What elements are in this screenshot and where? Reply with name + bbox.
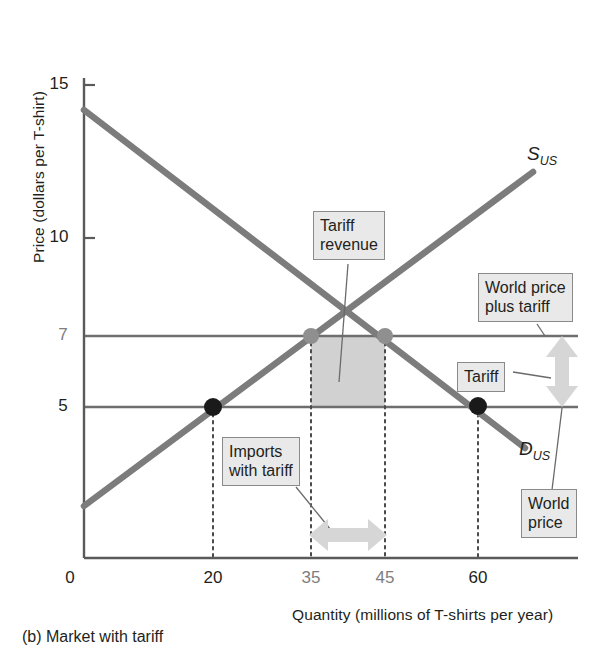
x-tick-label-60: 60 [461, 568, 495, 588]
x-tick-label-20: 20 [196, 568, 230, 588]
imports-double-arrow [309, 519, 387, 551]
demand-curve-label-text: D [519, 438, 533, 459]
marker-quantity-20-price-5 [204, 398, 222, 416]
demand-curve [84, 110, 525, 448]
callout-tariff: Tariff [457, 362, 505, 392]
callout-imports-with-tariff: Imports with tariff [222, 437, 300, 486]
x-axis-title: Quantity (millions of T-shirts per year) [292, 606, 553, 624]
callout-world-price-plus-tariff: World price plus tariff [478, 273, 573, 322]
callout-world-price-line1: World [528, 494, 570, 513]
marker-quantity-45-price-7 [377, 328, 393, 344]
callout-world-price-plus-tariff-line1: World price [485, 278, 566, 297]
leader-line-tariff [513, 372, 551, 378]
supply-curve-label-sub: US [540, 154, 557, 168]
callout-world-price: World price [521, 489, 577, 538]
y-tick-label-10: 10 [44, 227, 74, 247]
marker-quantity-35-price-7 [303, 328, 319, 344]
callout-imports-with-tariff-line2: with tariff [229, 461, 293, 480]
tariff-revenue-shaded-region [311, 336, 385, 407]
leader-line-world-price-plus-tariff [537, 324, 545, 336]
marker-quantity-60-price-5 [469, 397, 487, 415]
callout-tariff-line1: Tariff [464, 367, 498, 386]
demand-curve-label-sub: US [533, 449, 550, 463]
leader-line-imports-with-tariff [296, 487, 335, 535]
tariff-market-figure: Price (dollars per T-shirt) Quantity (mi… [0, 0, 610, 647]
y-tick-label-15: 15 [44, 74, 74, 94]
y-tick-label-7: 7 [52, 325, 74, 345]
x-tick-label-45: 45 [368, 568, 402, 588]
callout-imports-with-tariff-line1: Imports [229, 442, 293, 461]
supply-curve-label-text: S [527, 143, 540, 164]
supply-curve-label: SUS [527, 143, 557, 168]
callout-world-price-line2: price [528, 513, 570, 532]
tariff-double-arrow [546, 336, 578, 407]
x-tick-label-35: 35 [294, 568, 328, 588]
figure-caption: (b) Market with tariff [22, 628, 163, 646]
callout-world-price-plus-tariff-line2: plus tariff [485, 297, 566, 316]
demand-curve-label: DUS [519, 438, 550, 463]
leader-line-world-price [552, 408, 562, 490]
chart-canvas [0, 0, 610, 647]
y-tick-label-5: 5 [52, 396, 74, 416]
callout-tariff-revenue-line1: Tariff [320, 216, 378, 235]
x-tick-label-0: 0 [56, 568, 84, 588]
callout-tariff-revenue-line2: revenue [320, 235, 378, 254]
callout-tariff-revenue: Tariff revenue [313, 211, 385, 260]
